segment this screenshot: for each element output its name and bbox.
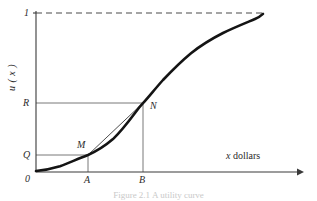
x-axis-title-text: dollars	[230, 150, 260, 161]
point-label-m: M	[77, 140, 85, 150]
utility-curve-figure: 1 R Q 0 A B M N x dollars u ( x ) Figure…	[0, 0, 317, 201]
x-axis-title: x dollars	[226, 151, 260, 161]
x-axis-tick-label-a: A	[84, 175, 90, 185]
y-axis-tick-label-one: 1	[24, 8, 29, 18]
chart-canvas	[0, 0, 317, 201]
chord-m-n	[88, 103, 143, 155]
y-axis-title: u ( x )	[6, 56, 17, 100]
x-axis-tick-label-b: B	[139, 175, 145, 185]
utility-curve-path	[36, 14, 263, 171]
y-axis-tick-label-q: Q	[23, 150, 30, 160]
origin-label: 0	[25, 174, 30, 184]
x-axis-arrow-icon	[297, 169, 304, 176]
y-axis-tick-label-r: R	[23, 98, 29, 108]
point-label-n: N	[150, 101, 157, 111]
figure-caption: Figure 2.1 A utility curve	[0, 190, 317, 200]
